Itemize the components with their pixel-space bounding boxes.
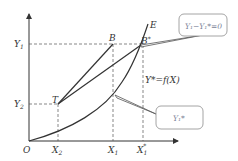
- label-Y1: Y1: [14, 39, 24, 50]
- guide-lines: [29, 44, 143, 141]
- line-T-B: [58, 44, 113, 104]
- label-origin: O: [23, 145, 31, 155]
- label-X1-star: X1*: [136, 142, 147, 156]
- label-B: B: [108, 33, 116, 43]
- callout-top-text: Y₁−Y₁*=0: [185, 22, 222, 31]
- callout-bottom-pointer: [115, 95, 156, 114]
- label-E: E: [149, 20, 157, 30]
- diagram: Y1 Y2 O X2 X1 X1* T B B* E Y*=f(X) Y₁−Y₁…: [0, 0, 238, 161]
- line-T-Bstar: [58, 45, 141, 104]
- callout-bottom-text: Y₁*: [173, 114, 185, 123]
- label-X2: X2: [51, 145, 62, 156]
- label-X1: X1: [107, 145, 118, 156]
- label-T: T: [52, 95, 59, 105]
- label-Y2: Y2: [14, 99, 24, 110]
- curve-label: Y*=f(X): [145, 75, 180, 85]
